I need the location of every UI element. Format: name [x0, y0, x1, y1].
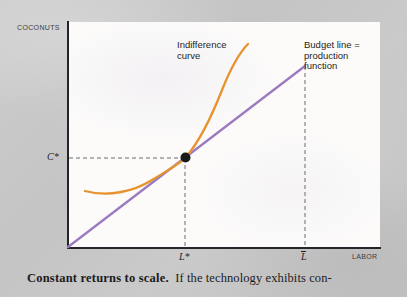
- annotation-budget-line: Budget line = production function: [304, 40, 360, 72]
- x-tick-label-l-bar: L: [301, 251, 307, 262]
- l-bar-glyph: L: [301, 251, 307, 262]
- y-axis-label: COCONUTS: [17, 24, 60, 31]
- annotation-indifference-curve: Indifference curve: [177, 40, 226, 61]
- x-tick-label-l-star: L*: [179, 251, 190, 262]
- figure-constant-returns-to-scale: COCONUTS LABOR C* L* L Indifference curv…: [0, 0, 407, 297]
- caption-body: If the technology exhibits con-: [175, 271, 332, 285]
- caption-bold-lead: Constant returns to scale.: [27, 271, 169, 285]
- figure-caption: Constant returns to scale. If the techno…: [27, 271, 397, 286]
- optimum-point-marker: [181, 153, 191, 163]
- x-axis-label: LABOR: [352, 253, 377, 260]
- indifference-curve: [85, 44, 248, 194]
- y-tick-label-c-star: C*: [47, 151, 59, 162]
